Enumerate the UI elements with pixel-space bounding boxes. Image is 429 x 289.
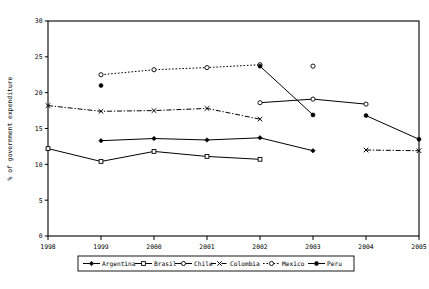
- y-axis-tick-label: 0: [39, 232, 43, 240]
- series-peru-marker: [258, 64, 262, 68]
- series-peru-marker: [417, 137, 421, 141]
- series-mexico-marker: [311, 64, 315, 68]
- y-axis-tick-label: 30: [35, 17, 43, 25]
- legend-label: Chile: [194, 260, 213, 267]
- series-chile-marker: [258, 101, 262, 105]
- line-chart: 0510152025301998199920002001200220032004…: [0, 0, 429, 289]
- series-peru-marker: [99, 84, 103, 88]
- series-peru-marker: [364, 114, 368, 118]
- y-axis-title: % of government expenditure: [6, 76, 14, 180]
- series-mexico-marker: [205, 65, 209, 69]
- series-peru-marker: [311, 113, 315, 117]
- series-brasil-marker: [152, 150, 156, 154]
- series-brasil-marker: [99, 160, 103, 164]
- series-brasil-marker: [205, 155, 209, 159]
- legend-label: Brasil: [154, 260, 177, 267]
- chart-container: 0510152025301998199920002001200220032004…: [0, 0, 429, 289]
- y-axis-tick-label: 25: [35, 53, 43, 61]
- x-axis-tick-label: 2000: [146, 243, 162, 251]
- series-mexico-marker: [152, 68, 156, 72]
- x-axis-tick-label: 2003: [305, 243, 321, 251]
- x-axis-tick-label: 2005: [411, 243, 427, 251]
- x-axis-tick-label: 2002: [252, 243, 268, 251]
- legend-marker: [315, 262, 319, 266]
- legend-marker: [269, 261, 273, 265]
- legend-label: Colombia: [230, 260, 260, 267]
- x-axis-tick-label: 2004: [358, 243, 374, 251]
- legend-marker: [142, 262, 146, 266]
- series-chile-marker: [311, 97, 315, 101]
- plot-area-frame: [48, 21, 419, 236]
- y-axis-tick-label: 5: [39, 197, 43, 205]
- y-axis-tick-label: 15: [35, 125, 43, 133]
- series-chile-marker: [364, 102, 368, 106]
- legend-marker: [181, 261, 185, 265]
- legend-label: Peru: [327, 260, 342, 267]
- y-axis-tick-label: 10: [35, 161, 43, 169]
- series-brasil-marker: [46, 147, 50, 151]
- legend-label: Argentina: [102, 260, 136, 268]
- series-brasil-marker: [258, 157, 262, 161]
- x-axis-tick-label: 2001: [199, 243, 215, 251]
- x-axis-tick-label: 1998: [40, 243, 56, 251]
- series-mexico-marker: [99, 73, 103, 77]
- x-axis-tick-label: 1999: [93, 243, 109, 251]
- legend-label: Mexico: [282, 260, 305, 267]
- y-axis-tick-label: 20: [35, 89, 43, 97]
